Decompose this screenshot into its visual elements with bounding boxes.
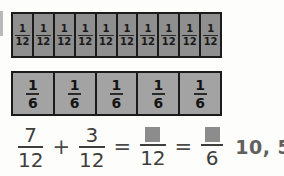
cell-fraction-denominator: 6 (112, 95, 122, 110)
cell-fraction-label: 112 (182, 24, 197, 47)
cell-fraction-numerator: 1 (153, 78, 163, 93)
cell-fraction-numerator: 1 (195, 78, 205, 93)
plus-operator: + (52, 137, 70, 158)
cell-fraction-denominator: 12 (15, 36, 29, 47)
term-2-denominator: 12 (79, 148, 104, 170)
cell-fraction-denominator: 6 (153, 95, 163, 110)
cell-fraction-denominator: 12 (162, 36, 176, 47)
cell-fraction-numerator: 1 (70, 78, 80, 93)
answer-text: 10, 5 (235, 136, 284, 158)
cell-fraction-label: 112 (140, 24, 155, 47)
cell-fraction-numerator: 1 (82, 24, 89, 35)
cell-fraction-numerator: 1 (207, 24, 214, 35)
cell-fraction-numerator: 1 (28, 78, 38, 93)
cell-fraction-label: 112 (203, 24, 218, 47)
result-1-denominator: 12 (140, 146, 165, 168)
cell-fraction-denominator: 12 (99, 36, 113, 47)
bar-cell[interactable]: 112 (159, 14, 180, 56)
cell-fraction-numerator: 1 (112, 78, 122, 93)
cell-fraction-label: 112 (161, 24, 176, 47)
result-2-blank-numerator[interactable] (205, 127, 220, 142)
cell-fraction-denominator: 12 (78, 36, 92, 47)
equation-term-1: 7 12 (18, 125, 43, 170)
bar-cell[interactable]: 16 (97, 73, 139, 114)
term-2-numerator: 3 (85, 125, 98, 146)
cell-fraction-numerator: 1 (186, 24, 193, 35)
cell-fraction-denominator: 6 (28, 95, 38, 110)
bar-cell[interactable]: 16 (55, 73, 97, 114)
cell-fraction-label: 112 (78, 24, 93, 47)
cell-fraction-label: 16 (194, 78, 207, 110)
bar-cell[interactable]: 112 (13, 14, 34, 56)
fraction-bar-sixths: 1616161616 (11, 71, 222, 116)
equation-row: 7 12 + 3 12 = 12 = 6 10, 5 (16, 121, 274, 173)
cell-fraction-denominator: 12 (141, 36, 155, 47)
equation-result-2: 6 (201, 127, 223, 168)
bar-cell[interactable]: 112 (201, 14, 220, 56)
equation-term-2: 3 12 (79, 125, 104, 170)
cell-fraction-numerator: 1 (40, 24, 47, 35)
cell-fraction-label: 112 (99, 24, 114, 47)
bar-cell[interactable]: 112 (76, 14, 97, 56)
cell-fraction-numerator: 1 (165, 24, 172, 35)
equals-operator-2: = (175, 137, 193, 158)
result-2-denominator: 6 (206, 146, 219, 168)
bar-cell[interactable]: 112 (180, 14, 201, 56)
cell-fraction-denominator: 12 (120, 36, 134, 47)
cell-fraction-numerator: 1 (103, 24, 110, 35)
term-1-numerator: 7 (24, 125, 37, 146)
cell-fraction-denominator: 12 (36, 36, 50, 47)
result-1-blank-numerator[interactable] (145, 127, 160, 142)
cell-fraction-label: 112 (15, 24, 30, 47)
equation-result-1: 12 (140, 127, 165, 168)
bar-cell[interactable]: 16 (180, 73, 220, 114)
cell-fraction-label: 16 (26, 78, 39, 110)
bar-cell[interactable]: 16 (13, 73, 55, 114)
cell-fraction-label: 16 (68, 78, 81, 110)
bar-cell[interactable]: 112 (55, 14, 76, 56)
scan-edge-artifact (0, 11, 3, 36)
bar-cell[interactable]: 112 (138, 14, 159, 56)
cell-fraction-denominator: 12 (183, 36, 197, 47)
cell-fraction-numerator: 1 (144, 24, 151, 35)
bar-cell[interactable]: 112 (118, 14, 139, 56)
bar-cell[interactable]: 16 (138, 73, 180, 114)
equals-operator-1: = (114, 137, 132, 158)
bar-cell[interactable]: 112 (34, 14, 55, 56)
cell-fraction-label: 112 (119, 24, 134, 47)
cell-fraction-label: 112 (57, 24, 72, 47)
cell-fraction-numerator: 1 (61, 24, 68, 35)
term-1-denominator: 12 (18, 148, 43, 170)
cell-fraction-denominator: 6 (70, 95, 80, 110)
cell-fraction-label: 112 (36, 24, 51, 47)
fraction-bar-twelfths: 112112112112112112112112112112 (11, 12, 222, 58)
cell-fraction-label: 16 (152, 78, 165, 110)
cell-fraction-label: 16 (110, 78, 123, 110)
cell-fraction-numerator: 1 (19, 24, 26, 35)
cell-fraction-denominator: 12 (57, 36, 71, 47)
cell-fraction-denominator: 6 (195, 95, 205, 110)
bar-cell[interactable]: 112 (97, 14, 118, 56)
cell-fraction-numerator: 1 (124, 24, 131, 35)
cell-fraction-denominator: 12 (204, 36, 218, 47)
